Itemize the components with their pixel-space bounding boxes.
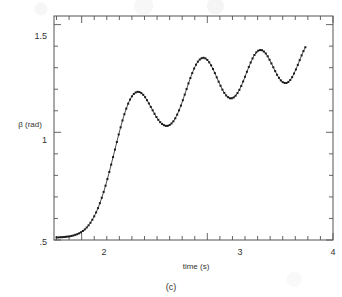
data-point — [110, 164, 112, 166]
data-point — [204, 57, 206, 59]
data-point — [57, 236, 59, 238]
data-point — [121, 119, 123, 121]
data-point — [133, 93, 135, 95]
data-point — [112, 156, 114, 158]
data-point — [88, 224, 90, 226]
data-point — [210, 64, 212, 66]
chart-canvas: 1.5 1 .5 2 3 4 β (rad) time (s) (c) — [0, 0, 342, 297]
data-point — [65, 236, 67, 238]
data-point — [148, 102, 150, 104]
data-point — [284, 82, 286, 84]
data-point — [172, 120, 174, 122]
data-point — [125, 108, 127, 110]
data-point — [252, 57, 254, 59]
data-point — [161, 123, 163, 125]
data-point — [74, 234, 76, 236]
x-ticklabel-3: 3 — [237, 247, 242, 257]
data-point — [108, 171, 110, 173]
data-point — [152, 109, 154, 111]
data-point — [286, 82, 288, 84]
data-point — [142, 94, 144, 96]
x-ticklabel-4: 4 — [330, 247, 335, 257]
data-point — [135, 91, 137, 93]
data-point — [225, 94, 227, 96]
data-point — [159, 121, 161, 123]
data-point — [304, 46, 306, 48]
data-point — [171, 122, 173, 124]
data-point — [269, 59, 271, 61]
data-point — [276, 74, 278, 76]
data-point — [69, 235, 71, 237]
data-point — [78, 232, 80, 234]
data-point — [216, 76, 218, 78]
data-point — [123, 113, 125, 115]
data-point — [302, 50, 304, 52]
data-point — [244, 76, 246, 78]
data-point — [163, 124, 165, 126]
y-ticklabel-1p5: 1.5 — [34, 31, 47, 41]
data-point — [250, 62, 252, 64]
data-point — [154, 113, 156, 115]
data-point — [287, 81, 289, 83]
data-point — [61, 236, 63, 238]
data-point — [259, 49, 261, 51]
data-point — [293, 73, 295, 75]
data-point — [299, 59, 301, 61]
data-point — [227, 96, 229, 98]
data-point — [257, 50, 259, 52]
data-point — [127, 103, 129, 105]
data-point — [231, 97, 233, 99]
data-point — [59, 236, 61, 238]
data-point-markers — [56, 46, 307, 238]
data-point — [93, 215, 95, 217]
data-point — [272, 66, 274, 68]
data-point — [218, 81, 220, 83]
data-point — [106, 178, 108, 180]
data-point — [221, 89, 223, 91]
data-point — [80, 231, 82, 233]
data-point — [282, 81, 284, 83]
data-point — [169, 124, 171, 126]
figure-caption: (c) — [166, 282, 177, 292]
data-point — [182, 99, 184, 101]
data-point — [167, 125, 169, 127]
data-point — [101, 197, 103, 199]
data-point — [242, 80, 244, 82]
data-point — [138, 91, 140, 93]
data-point — [193, 68, 195, 70]
y-axis-title: β (rad) — [18, 120, 42, 129]
data-point — [176, 114, 178, 116]
y-ticklabel-1: 1 — [42, 135, 47, 145]
data-point — [63, 236, 65, 238]
data-point — [201, 57, 203, 59]
data-point — [253, 54, 255, 56]
data-point — [261, 49, 263, 51]
data-point — [191, 72, 193, 74]
data-point — [84, 228, 86, 230]
data-point — [240, 85, 242, 87]
data-point — [180, 105, 182, 107]
data-point — [255, 51, 257, 53]
data-point — [71, 235, 73, 237]
axis-ticks — [54, 16, 333, 240]
data-point — [178, 109, 180, 111]
y-ticklabel-p5: .5 — [39, 237, 47, 247]
data-point — [267, 55, 269, 57]
data-point — [129, 99, 131, 101]
data-point — [199, 59, 201, 61]
data-point — [297, 64, 299, 66]
data-point — [82, 230, 84, 232]
data-point — [155, 116, 157, 118]
data-point — [278, 77, 280, 79]
data-point — [235, 95, 237, 97]
plot-frame — [54, 16, 333, 240]
data-point — [236, 92, 238, 94]
data-point — [208, 61, 210, 63]
data-point — [270, 62, 272, 64]
data-point — [246, 71, 248, 73]
data-point — [174, 117, 176, 119]
data-point — [86, 227, 88, 229]
data-point — [203, 57, 205, 59]
data-point — [56, 236, 58, 238]
data-point — [76, 233, 78, 235]
